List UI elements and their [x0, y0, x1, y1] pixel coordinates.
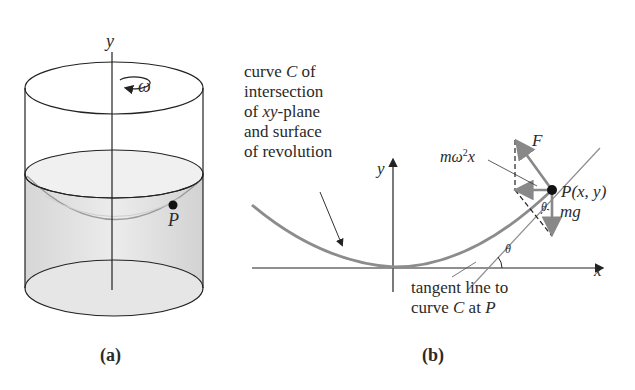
centripetal-pointer	[488, 160, 537, 186]
curve-note-line: of revolution	[244, 142, 332, 162]
point-p-dot-b	[547, 185, 557, 195]
y-axis-label-a: y	[106, 32, 114, 50]
curve-note-line: and surface	[244, 122, 332, 142]
point-p-dot	[169, 201, 178, 210]
point-p-label-b: P(x, y)	[561, 183, 606, 200]
centripetal-label: mω2x	[440, 148, 475, 165]
angle-arc-bottom	[498, 257, 502, 268]
curve-note-line: curve C of	[244, 62, 332, 82]
curve-note-line: intersection	[244, 82, 332, 102]
x-axis-label-b: x	[594, 262, 602, 279]
curve-note: curve C of intersection of xy-plane and …	[244, 62, 332, 162]
tangent-note-line: tangent line to	[411, 278, 508, 298]
omega-label: ω	[138, 77, 151, 95]
force-f-label: F	[532, 132, 542, 149]
angle-label-bottom: θ	[505, 243, 511, 255]
caption-b: (b)	[422, 346, 444, 364]
y-axis-label-b: y	[377, 160, 385, 177]
point-p-label-a: P	[168, 211, 179, 229]
curve-note-line: of xy-plane	[244, 102, 332, 122]
cylinder-bottom	[25, 260, 203, 316]
cross-section-figure	[252, 140, 602, 292]
cylinder-top	[25, 62, 203, 114]
caption-a: (a)	[100, 346, 121, 364]
diagram-canvas	[0, 0, 635, 390]
force-f-arrow	[518, 143, 552, 190]
tangent-pointer	[452, 262, 476, 277]
curve-pointer	[320, 192, 342, 245]
gravity-label: mg	[560, 203, 581, 220]
angle-label-top: θ	[541, 201, 547, 213]
tangent-note-line: curve C at P	[411, 298, 508, 318]
tangent-note: tangent line to curve C at P	[411, 278, 508, 318]
cylinder-figure	[25, 52, 203, 316]
